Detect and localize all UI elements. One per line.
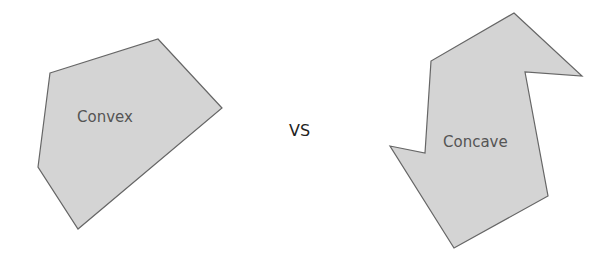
convex-label: Convex — [77, 108, 133, 126]
concave-label: Concave — [443, 133, 508, 151]
convex-polygon — [38, 39, 222, 229]
concave-polygon — [390, 13, 582, 248]
vs-separator: VS — [289, 121, 310, 140]
